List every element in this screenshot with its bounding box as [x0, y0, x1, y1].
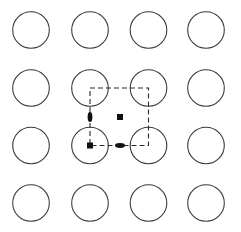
- lattice-circle-r1-c4: [188, 12, 225, 49]
- lattice-circle-r2-c1: [13, 70, 50, 107]
- lattice-circle-r3-c1: [13, 127, 50, 164]
- lattice-circle-r3-c4: [188, 127, 225, 164]
- lattice-circle-r1-c3: [130, 12, 167, 49]
- symmetry-markers: [87, 112, 125, 149]
- lattice-circle-r1-c1: [13, 12, 50, 49]
- lattice-circle-r2-c4: [188, 70, 225, 107]
- lattice-circle-r4-c3: [130, 185, 167, 222]
- twofold-axis-lens-left-edge-icon: [88, 112, 93, 122]
- twofold-axis-square-corner-icon: [87, 143, 93, 149]
- lattice-diagram: [0, 0, 241, 232]
- lattice-circle-r1-c2: [72, 12, 109, 49]
- lattice-circle-r4-c4: [188, 185, 225, 222]
- twofold-axis-square-center-icon: [117, 114, 123, 120]
- twofold-axis-lens-bottom-edge-icon: [115, 143, 125, 148]
- lattice-circle-r4-c1: [13, 185, 50, 222]
- lattice-circle-r4-c2: [72, 185, 109, 222]
